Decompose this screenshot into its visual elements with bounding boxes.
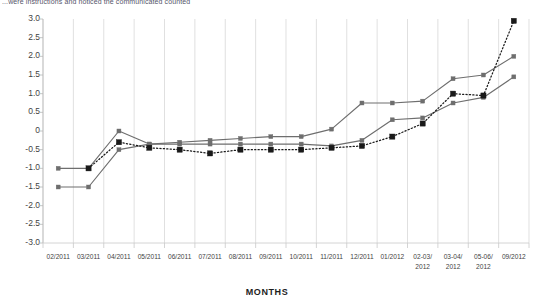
data-point-marker	[87, 185, 91, 189]
data-point-marker	[421, 99, 425, 103]
x-axis-title: MONTHS	[0, 287, 534, 297]
data-point-marker	[481, 93, 486, 98]
data-point-marker	[56, 185, 60, 189]
data-point-marker	[420, 121, 425, 126]
data-point-marker	[299, 135, 303, 139]
data-point-marker	[238, 136, 242, 140]
data-point-marker	[207, 151, 212, 156]
data-point-marker	[208, 142, 212, 146]
data-point-marker	[86, 166, 91, 171]
x-tick-label: 09/2012	[494, 252, 534, 262]
line-chart: ...were instructions and noticed the com…	[0, 0, 534, 304]
data-point-marker	[512, 75, 516, 79]
data-point-marker	[330, 127, 334, 131]
data-point-marker	[178, 142, 182, 146]
data-point-marker	[299, 142, 303, 146]
data-point-marker	[390, 134, 395, 139]
data-point-marker	[238, 147, 243, 152]
data-point-marker	[147, 145, 152, 150]
data-point-marker	[360, 138, 364, 142]
data-point-marker	[512, 54, 516, 58]
data-point-marker	[117, 129, 121, 133]
data-point-marker	[116, 140, 121, 145]
data-point-marker	[329, 145, 334, 150]
data-point-marker	[269, 135, 273, 139]
data-point-marker	[390, 101, 394, 105]
data-point-marker	[390, 118, 394, 122]
data-point-marker	[451, 101, 455, 105]
data-point-marker	[299, 147, 304, 152]
gridlines	[43, 19, 529, 243]
data-point-marker	[359, 143, 364, 148]
x-axis-labels: 02/201103/201104/201105/201106/201107/20…	[43, 252, 529, 286]
data-point-marker	[450, 91, 455, 96]
data-point-marker	[177, 147, 182, 152]
series-3	[86, 18, 516, 171]
data-point-marker	[56, 166, 60, 170]
data-point-marker	[117, 148, 121, 152]
data-point-marker	[208, 138, 212, 142]
data-point-marker	[451, 77, 455, 81]
axes	[39, 19, 529, 248]
data-point-marker	[481, 73, 485, 77]
data-point-marker	[511, 18, 516, 23]
data-point-marker	[269, 142, 273, 146]
data-point-marker	[360, 101, 364, 105]
data-point-marker	[268, 147, 273, 152]
data-point-marker	[421, 116, 425, 120]
data-point-marker	[238, 142, 242, 146]
